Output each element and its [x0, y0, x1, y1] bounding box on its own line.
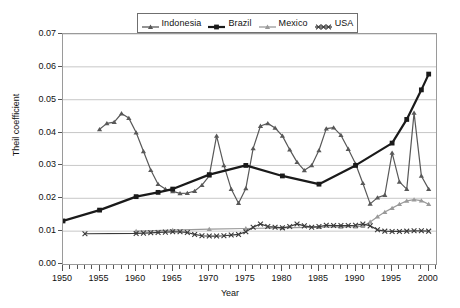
data-point — [155, 182, 160, 186]
x-minor-tick — [201, 265, 202, 269]
x-minor-tick — [296, 265, 297, 269]
x-minor-tick — [69, 265, 70, 269]
data-point — [346, 147, 351, 151]
x-major-tick — [99, 265, 100, 271]
data-point — [426, 187, 431, 191]
x-tick-label: 1970 — [188, 274, 228, 283]
x-minor-tick — [303, 265, 304, 269]
x-minor-tick — [106, 265, 107, 269]
x-minor-tick — [413, 265, 414, 269]
y-tick-label: 0.03 — [22, 160, 56, 169]
x-minor-tick — [150, 265, 151, 269]
data-point — [294, 160, 299, 164]
legend-item-indonesia[interactable]: Indonesia — [142, 18, 202, 28]
x-tick-label: 1950 — [42, 274, 82, 283]
x-minor-tick — [325, 265, 326, 269]
data-point — [243, 186, 248, 190]
data-point — [390, 141, 395, 146]
data-point — [317, 182, 322, 187]
series-usa — [83, 222, 432, 239]
data-point — [156, 190, 161, 195]
legend-marker-usa-icon — [315, 18, 332, 28]
x-minor-tick — [113, 265, 114, 269]
data-point — [97, 208, 102, 213]
data-point — [229, 187, 234, 191]
y-axis-title: Theil coefficient — [11, 65, 21, 185]
x-minor-tick — [121, 265, 122, 269]
data-point — [426, 72, 431, 77]
x-major-tick — [428, 265, 429, 271]
x-minor-tick — [340, 265, 341, 269]
x-minor-tick — [333, 265, 334, 269]
data-point — [236, 201, 241, 205]
y-tick-label: 0.00 — [22, 259, 56, 268]
data-point — [382, 193, 387, 197]
x-major-tick — [62, 265, 63, 271]
x-minor-tick — [194, 265, 195, 269]
data-point — [360, 181, 365, 185]
x-major-tick — [135, 265, 136, 271]
plot-area — [62, 33, 437, 265]
x-minor-tick — [179, 265, 180, 269]
x-axis-title: Year — [0, 288, 460, 298]
data-point — [214, 133, 219, 137]
data-point — [119, 111, 124, 115]
data-point — [419, 174, 424, 178]
x-minor-tick — [260, 265, 261, 269]
x-major-tick — [245, 265, 246, 271]
x-minor-tick — [128, 265, 129, 269]
x-minor-tick — [238, 265, 239, 269]
x-minor-tick — [84, 265, 85, 269]
x-tick-label: 1990 — [335, 274, 375, 283]
data-point — [316, 148, 321, 152]
x-minor-tick — [267, 265, 268, 269]
data-point — [404, 117, 409, 122]
x-tick-label: 1985 — [298, 274, 338, 283]
data-point — [390, 151, 395, 155]
legend-item-mexico[interactable]: Mexico — [259, 18, 308, 28]
x-minor-tick — [362, 265, 363, 269]
x-minor-tick — [77, 265, 78, 269]
x-minor-tick — [143, 265, 144, 269]
x-minor-tick — [223, 265, 224, 269]
y-tick-label: 0.01 — [22, 226, 56, 235]
x-major-tick — [208, 265, 209, 271]
x-minor-tick — [216, 265, 217, 269]
x-tick-label: 1960 — [115, 274, 155, 283]
chart-legend: IndonesiaBrazilMexicoUSA — [137, 13, 358, 33]
data-point — [170, 187, 175, 192]
chart-figure: IndonesiaBrazilMexicoUSA 0.000.010.020.0… — [0, 0, 460, 308]
x-major-tick — [281, 265, 282, 271]
data-point — [419, 87, 424, 92]
y-tick-label: 0.02 — [22, 193, 56, 202]
x-minor-tick — [347, 265, 348, 269]
x-major-tick — [318, 265, 319, 271]
data-point — [411, 110, 416, 114]
series-indonesia — [97, 110, 431, 205]
x-minor-tick — [384, 265, 385, 269]
x-tick-label: 1995 — [371, 274, 411, 283]
x-minor-tick — [398, 265, 399, 269]
data-point — [390, 206, 395, 210]
plot-canvas — [63, 34, 436, 264]
x-minor-tick — [420, 265, 421, 269]
x-minor-tick — [230, 265, 231, 269]
x-minor-tick — [369, 265, 370, 269]
x-major-tick — [355, 265, 356, 271]
data-point — [251, 146, 256, 150]
x-minor-tick — [274, 265, 275, 269]
legend-item-usa[interactable]: USA — [315, 18, 354, 28]
x-minor-tick — [377, 265, 378, 269]
series-brazil — [63, 72, 431, 224]
x-major-tick — [391, 265, 392, 271]
legend-label: Mexico — [279, 18, 308, 28]
legend-marker-indonesia-icon — [142, 18, 159, 28]
x-minor-tick — [289, 265, 290, 269]
legend-label: Brazil — [228, 18, 251, 28]
x-minor-tick — [435, 265, 436, 269]
x-minor-tick — [164, 265, 165, 269]
x-minor-tick — [406, 265, 407, 269]
data-point — [280, 174, 285, 179]
x-minor-tick — [311, 265, 312, 269]
legend-item-brazil[interactable]: Brazil — [208, 18, 251, 28]
